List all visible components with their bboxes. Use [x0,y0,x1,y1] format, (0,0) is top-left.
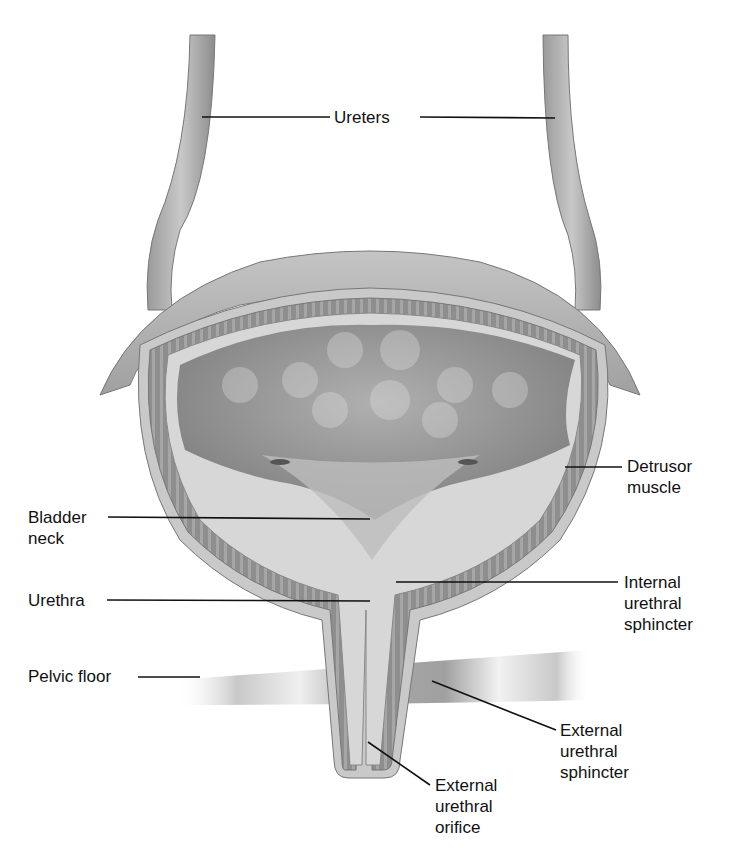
label-pelvic-floor: Pelvic floor [28,666,111,687]
label-external-urethral-sphincter: External urethral sphincter [560,720,629,783]
bladder-diagram [0,0,744,861]
ureter-right [543,35,601,310]
label-detrusor-muscle: Detrusor muscle [627,456,692,498]
label-urethra: Urethra [28,590,85,611]
ureteric-orifice-left [270,459,290,465]
ureter-left [147,35,215,310]
label-internal-urethral-sphincter: Internal urethral sphincter [624,572,693,635]
label-external-urethral-orifice: External urethral orifice [435,775,497,838]
label-bladder-neck: Bladder neck [28,507,87,549]
ureteric-orifice-right [458,459,478,465]
label-ureters: Ureters [334,107,390,128]
